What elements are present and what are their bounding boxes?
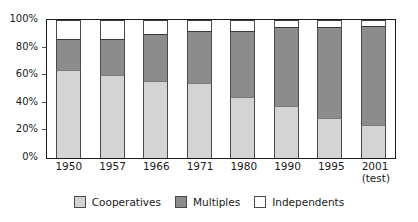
segment-cooperatives (361, 125, 386, 158)
segment-multiples (230, 31, 255, 97)
segment-independents (187, 20, 212, 31)
x-tick-1971: 1971 (187, 160, 212, 172)
x-tick-label: 1950 (55, 160, 82, 172)
x-tick-label: 1980 (230, 160, 257, 172)
y-tick-label-80: 80% (16, 42, 38, 52)
x-tick-1966: 1966 (143, 160, 168, 172)
bar-1980 (230, 20, 255, 158)
legend-label-independents: Independents (272, 196, 344, 208)
y-tick-label-0: 0% (22, 152, 38, 162)
legend-label-cooperatives: Cooperatives (92, 196, 161, 208)
x-tick-label: 1966 (143, 160, 170, 172)
x-tick-label: 2001 (362, 160, 389, 172)
legend-swatch-independents (254, 196, 266, 208)
bar-1950 (56, 20, 81, 158)
y-tick-label-20: 20% (16, 124, 38, 134)
bar-1966 (143, 20, 168, 158)
x-tick-1980: 1980 (230, 160, 255, 172)
x-tick-1957: 1957 (99, 160, 124, 172)
segment-independents (56, 20, 81, 39)
segment-multiples (143, 34, 168, 81)
plot-area (46, 19, 396, 159)
legend: Cooperatives Multiples Independents (0, 196, 418, 208)
legend-item-independents: Independents (254, 196, 344, 208)
segment-cooperatives (56, 70, 81, 158)
bar-1971 (187, 20, 212, 158)
x-tick-label: 1990 (274, 160, 301, 172)
segment-multiples (317, 27, 342, 118)
legend-swatch-cooperatives (74, 196, 86, 208)
segment-cooperatives (317, 118, 342, 158)
x-tick-1950: 1950 (55, 160, 80, 172)
y-axis: 100% 80% 60% 40% 20% 0% (0, 0, 46, 222)
x-tick-sublabel: (test) (362, 172, 387, 184)
segment-multiples (187, 31, 212, 83)
segment-cooperatives (100, 75, 125, 158)
legend-label-multiples: Multiples (193, 196, 240, 208)
legend-item-multiples: Multiples (175, 196, 240, 208)
segment-independents (317, 20, 342, 27)
y-tick-label-60: 60% (16, 69, 38, 79)
segment-independents (100, 20, 125, 39)
stacked-bar-chart: 100% 80% 60% 40% 20% 0% (0, 0, 418, 222)
segment-independents (230, 20, 255, 31)
bars-container (47, 20, 395, 158)
segment-cooperatives (274, 106, 299, 158)
y-tick-label-100: 100% (9, 14, 38, 24)
segment-independents (274, 20, 299, 27)
bar-2001 (361, 20, 386, 158)
segment-multiples (274, 27, 299, 106)
x-tick-label: 1995 (318, 160, 345, 172)
bar-1957 (100, 20, 125, 158)
x-tick-1995: 1995 (318, 160, 343, 172)
legend-swatch-multiples (175, 196, 187, 208)
x-tick-label: 1957 (99, 160, 126, 172)
segment-multiples (361, 26, 386, 125)
bar-1995 (317, 20, 342, 158)
segment-cooperatives (187, 83, 212, 158)
x-tick-1990: 1990 (274, 160, 299, 172)
x-tick-2001: 2001 (test) (362, 160, 387, 184)
bar-1990 (274, 20, 299, 158)
segment-multiples (100, 39, 125, 75)
y-tick-label-40: 40% (16, 97, 38, 107)
segment-multiples (56, 39, 81, 69)
legend-item-cooperatives: Cooperatives (74, 196, 161, 208)
x-tick-label: 1971 (187, 160, 214, 172)
segment-independents (143, 20, 168, 34)
segment-cooperatives (143, 81, 168, 158)
x-axis: 1950 1957 1966 1971 1980 1990 1995 2001 … (46, 160, 396, 194)
segment-cooperatives (230, 97, 255, 158)
